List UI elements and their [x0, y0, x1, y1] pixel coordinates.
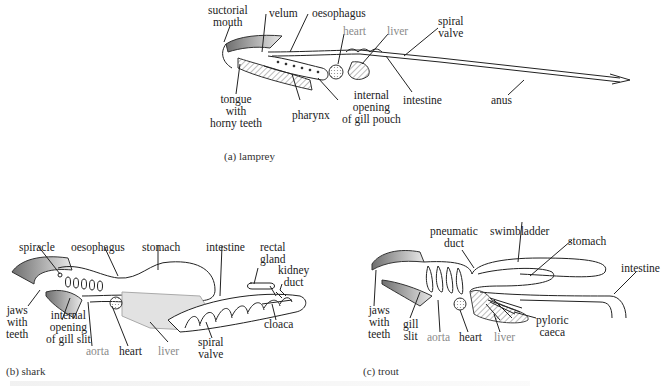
label-intestine: intestine [403, 94, 442, 106]
label-jaws-with-teeth: jaws with teeth [368, 304, 390, 340]
label-pharynx: pharynx [292, 109, 330, 121]
caption-shark: (b) shark [6, 365, 45, 377]
label-swimbladder: swimbladder [490, 225, 549, 237]
trout-head-lower [382, 280, 432, 306]
label-oesophagus: oesophagus [312, 7, 366, 19]
label-spiral-valve: spiral valve [198, 336, 224, 360]
label-stomach: stomach [142, 241, 180, 253]
lamprey-liver [348, 62, 369, 80]
caption-lamprey: (a) lamprey [224, 150, 275, 162]
label-heart: heart [459, 331, 482, 343]
lamprey-diagram [223, 14, 630, 100]
figure: suctorial mouth velum oesophagus heart l… [0, 0, 668, 392]
shark-head-upper [12, 257, 72, 284]
label-oesophagus: oesophagus [71, 241, 125, 253]
label-liver: liver [387, 25, 408, 37]
shark-heart [110, 297, 122, 309]
lamprey-heart [329, 65, 343, 79]
label-intestine: intestine [621, 262, 660, 274]
label-stomach: stomach [568, 235, 606, 247]
trout-stomach [470, 268, 554, 292]
label-tongue: tongue with horny teeth [210, 93, 262, 129]
label-suctorial-mouth: suctorial mouth [208, 4, 248, 28]
lamprey-oesophagus [268, 50, 620, 78]
label-pneumatic-duct: pneumatic duct [430, 225, 478, 249]
lamprey-head-upper [226, 35, 282, 52]
label-spiral-valve: spiral valve [438, 15, 464, 39]
figure-caption-faded [10, 381, 530, 386]
label-anus: anus [491, 94, 512, 106]
label-heart: heart [343, 25, 366, 37]
label-pyloric-caeca: pyloric caeca [536, 314, 569, 338]
label-heart: heart [119, 345, 142, 357]
label-jaws-with-teeth: jaws with teeth [6, 304, 28, 340]
label-gill-slit: gill slit [403, 318, 418, 342]
label-kidney-duct: kidney duct [278, 264, 309, 288]
label-cloaca: cloaca [264, 318, 293, 330]
label-spiracle: spiracle [19, 241, 55, 253]
caption-trout: (c) trout [363, 365, 399, 377]
trout-head-upper [372, 251, 424, 271]
trout-heart [454, 298, 466, 310]
label-internal-opening-gill-pouch: internal opening of gill pouch [342, 89, 401, 125]
label-intestine: intestine [206, 241, 245, 253]
label-internal-opening-gill-slit: internal opening of gill slit [46, 309, 91, 345]
label-rectal-gland: rectal gland [260, 241, 286, 265]
label-velum: velum [269, 7, 298, 19]
label-aorta: aorta [86, 345, 109, 357]
label-liver: liver [494, 331, 515, 343]
label-liver: liver [158, 345, 179, 357]
label-aorta: aorta [427, 331, 450, 343]
